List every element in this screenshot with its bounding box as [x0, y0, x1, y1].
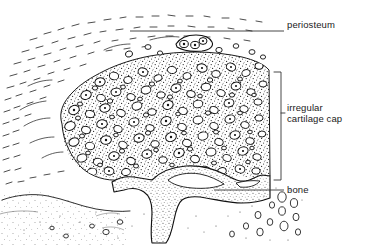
label-cartilage-line-1: irregular	[287, 102, 323, 113]
label-periosteum: periosteum	[287, 20, 335, 31]
cartilage-cap-bracket	[274, 72, 285, 180]
label-cartilage-line-2: cartilage cap	[287, 113, 342, 124]
superficial-cell-cluster	[176, 35, 213, 51]
label-irregular-cartilage-cap: irregularcartilage cap	[287, 103, 342, 124]
marrow-space-region	[0, 186, 160, 245]
histology-figure: periosteum irregularcartilage cap bone	[0, 0, 370, 245]
label-bone: bone	[287, 185, 309, 196]
